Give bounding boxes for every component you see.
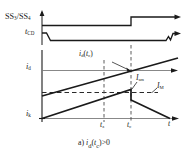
time-axis-label: t [168,120,170,128]
time-axis-arrowhead [172,116,179,121]
ss-signal-label-base2: SS [19,12,28,21]
top-axis-arrowhead [40,10,45,16]
id-of-tc-close: ) [90,49,93,58]
tcd-signal-trace [42,33,176,41]
im-label: IM [157,82,164,90]
tcd-signal-arrowhead [175,31,182,36]
ss-signal-label: SS3/SS4 [5,13,31,21]
ism-leader [132,82,137,89]
caption-relation: >0 [102,138,110,147]
waveform-figure: SS3/SS4 tCD id ik id(tc) Ism IM tz tc t … [0,0,188,154]
id-current-trace [42,58,178,96]
ss-signal-trace [42,17,176,26]
id-axis-label-sub: d [28,65,31,71]
im-label-sub: M [160,85,164,90]
caption-prefix: a) [78,138,84,147]
id-axis-label: id [26,63,31,71]
ik-axis-label-sub: k [28,112,31,118]
id-of-tc-label: id(tc) [79,50,93,58]
ss-signal-label-base1: SS [5,12,14,21]
ism-label: Ism [136,74,144,82]
id-of-tc-argsub: c [88,53,90,58]
tcd-label-sub: CD [27,30,34,36]
id-axis-arrowhead [171,68,178,73]
ik-current-trace [42,90,170,119]
ss-signal-arrowhead [175,15,182,20]
tick-label-tc: tc [127,121,131,129]
waveform-plot [0,0,188,154]
tick-tc-sub: c [129,124,131,129]
ism-label-sub: sm [139,77,145,82]
ss-signal-label-sub1: 3 [14,15,17,21]
tick-label-tz: tz [100,121,104,129]
tick-tz-sub: z [102,124,104,129]
ik-axis-label: ik [26,110,31,118]
ss-signal-label-sub2: 4 [28,15,31,21]
figure-caption: a) id(tc)>0 [0,138,188,149]
tcd-label: tCD [25,28,34,36]
